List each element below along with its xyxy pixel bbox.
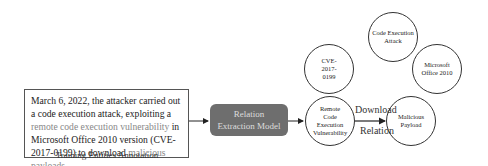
edge-label-relation: Relation bbox=[360, 125, 394, 136]
node-cve: CVE-2017-0199 bbox=[304, 44, 354, 94]
edge-label-download: Download bbox=[355, 104, 397, 115]
node-remote-code-execution: Remote Code Execution Vulnerability bbox=[305, 96, 355, 146]
node-microsoft-office: Microsoft Office 2010 bbox=[412, 44, 462, 94]
model-label: Extraction Model bbox=[217, 120, 280, 132]
node-code-execution-attack: Code Execution Attack bbox=[368, 12, 418, 62]
relation-extraction-model: Relation Extraction Model bbox=[210, 104, 288, 136]
model-label: Relation bbox=[234, 108, 265, 120]
